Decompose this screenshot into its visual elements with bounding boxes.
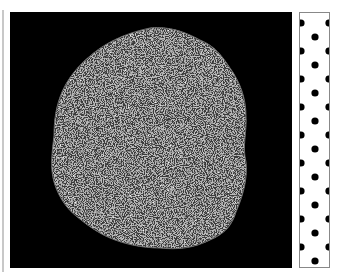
left-margin-rule xyxy=(2,10,4,272)
specimen-photo-panel xyxy=(10,12,292,268)
dotted-scale-strip xyxy=(299,12,330,268)
dot-pattern xyxy=(300,13,330,268)
rock-specimen-image xyxy=(10,12,292,268)
